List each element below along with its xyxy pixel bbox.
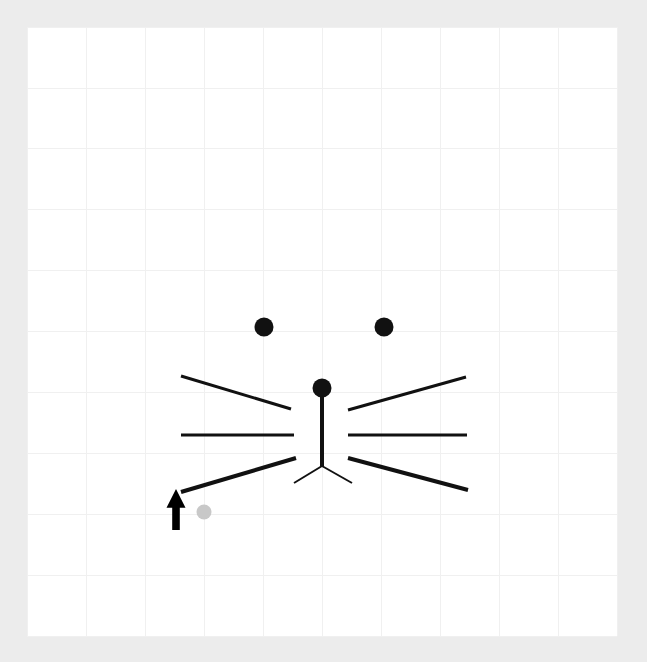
app-root (0, 0, 647, 662)
drawing-canvas[interactable] (27, 27, 617, 636)
